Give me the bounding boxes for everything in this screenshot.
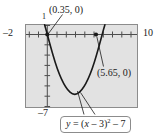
annotation-root-left: (0.35, 0): [49, 5, 83, 15]
axis-label-xmax: 10: [143, 28, 153, 38]
plot-panel: [26, 25, 138, 108]
axis-label-ymin: –7: [38, 108, 48, 118]
graph-figure: –2 10 1 –7 (0.35, 0) (5.65, 0) y = (x – …: [0, 0, 166, 139]
annotation-root-right: (5.65, 0): [97, 68, 131, 78]
axis-label-xmin: –2: [3, 28, 13, 38]
equation-callout: y = (x – 3)2 – 7: [60, 116, 131, 133]
axis-label-ymax: 1: [42, 13, 46, 21]
root-marker-right: [94, 32, 98, 36]
equation-equals: =: [70, 118, 81, 129]
equation-minus-h: – 3: [89, 118, 104, 129]
equation-minus-k: – 7: [110, 118, 125, 129]
